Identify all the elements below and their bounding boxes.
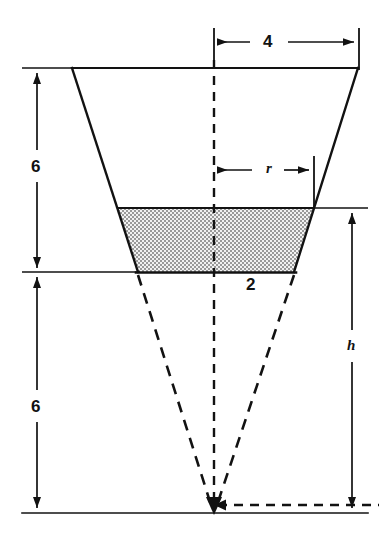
- figure-canvas: 4 r 6 6 2 h: [0, 0, 379, 549]
- geometry-diagram-svg: [0, 0, 379, 549]
- cone-extension-left: [138, 275, 212, 508]
- water-region: [118, 208, 313, 272]
- label-lower-depth: 6: [31, 398, 40, 415]
- label-top-width: 4: [263, 33, 272, 50]
- label-water-radius: r: [266, 161, 272, 176]
- label-water-height: h: [347, 338, 355, 353]
- cone-extension-right: [216, 275, 294, 508]
- label-upper-depth: 6: [31, 158, 40, 175]
- label-bottom-radius: 2: [246, 276, 255, 293]
- tank-wall-left: [72, 68, 138, 272]
